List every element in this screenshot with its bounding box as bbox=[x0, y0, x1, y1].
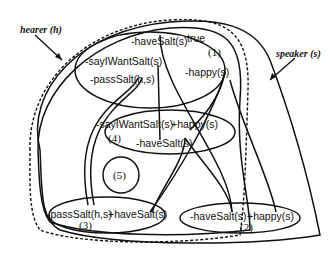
prop-haveSalt-1: -haveSalt(s) bbox=[131, 35, 188, 47]
prop-passSalt-1: -passSalt(h,s) bbox=[90, 73, 155, 85]
state-2-number: (2) bbox=[240, 221, 253, 234]
prop-happy-2: +happy(s) bbox=[247, 210, 294, 222]
prop-happy-1: -happy(s) bbox=[185, 66, 229, 78]
link bbox=[152, 138, 185, 212]
state-4-number: (4) bbox=[108, 132, 121, 145]
prop-true-1: true bbox=[187, 32, 205, 44]
hearer-label: hearer (h) bbox=[20, 24, 62, 36]
prop-haveSalt-3: +haveSalt(s) bbox=[108, 208, 167, 220]
link bbox=[230, 80, 276, 212]
speaker-label: speaker (s) bbox=[275, 48, 321, 60]
state-5-number: (5) bbox=[113, 169, 126, 182]
prop-haveSalt-2: -haveSalt(s) bbox=[190, 210, 247, 222]
state-3-number: (3) bbox=[79, 219, 92, 232]
prop-sayIWantSalt-4: -sayIWantSalt(s) bbox=[96, 118, 173, 130]
prop-haveSalt-4: -haveSalt(s) bbox=[136, 137, 193, 149]
prop-happy-4: +happy(s) bbox=[171, 118, 218, 130]
state-1-number: (1) bbox=[208, 46, 221, 59]
prop-sayIWantSalt-1: -sayIWantSalt(s) bbox=[85, 55, 162, 67]
belief-diagram: hearer (h) speaker (s) -haveSalt(s) true… bbox=[0, 0, 333, 257]
diagram-canvas: hearer (h) speaker (s) -haveSalt(s) true… bbox=[0, 0, 333, 257]
